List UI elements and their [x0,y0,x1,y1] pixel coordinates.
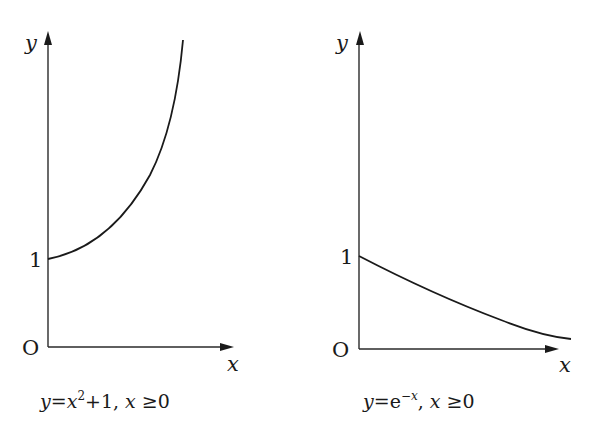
caption-x-domain: x [125,390,136,412]
y-axis-label: y [336,33,348,54]
caption-equals-e: =e [374,390,401,412]
origin-label: O [332,340,349,361]
chart-quadratic: y 1 O x y=x2+1, x ≥0 [0,0,301,434]
caption-quadratic: y=x2+1, x ≥0 [40,392,170,411]
caption-equals: = [51,390,67,412]
caption-y: y [40,390,51,412]
caption-y: y [363,390,374,412]
x-axis-label: x [227,354,239,375]
caption-exponential: y=e−x, x ≥0 [363,392,475,411]
x-axis-arrow-icon [545,345,559,353]
y-axis-arrow-icon [44,31,52,45]
y-axis-arrow-icon [356,31,364,45]
caption-condition: ≥0 [441,390,475,412]
x-axis-arrow-icon [220,343,234,351]
chart-exponential-decay: y 1 O x y=e−x, x ≥0 [301,0,602,434]
caption-x: x [67,390,78,412]
caption-comma: , [418,390,430,412]
caption-condition: ≥0 [136,390,170,412]
exponential-plot-area [301,0,602,434]
origin-label: O [22,338,39,359]
x-axis-label: x [559,355,571,376]
exponential-decay-curve [359,256,571,339]
y-axis-label: y [25,33,37,54]
caption-exponent: −x [401,389,418,403]
y-tick-label-1: 1 [29,250,42,271]
quadratic-plot-area [0,0,301,434]
caption-plus-one: +1, [85,390,125,412]
caption-exponent: 2 [77,389,85,403]
quadratic-curve [48,40,183,259]
caption-x-domain: x [430,390,441,412]
y-tick-label-1: 1 [340,247,353,268]
